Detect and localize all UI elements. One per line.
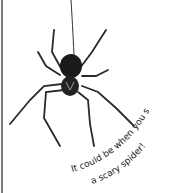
leg-back-left xyxy=(44,90,64,146)
spider-cephalothorax xyxy=(61,76,79,96)
spider-thread xyxy=(71,0,74,55)
spider-illustration: It could be when you see a scary spider! xyxy=(0,0,177,193)
leg-front-right xyxy=(80,30,106,68)
leg-back-right xyxy=(78,92,94,146)
leg-third-left xyxy=(10,84,62,124)
leg-second-left xyxy=(38,52,60,75)
spider-abdomen xyxy=(60,54,82,78)
leg-second-right xyxy=(82,70,108,76)
